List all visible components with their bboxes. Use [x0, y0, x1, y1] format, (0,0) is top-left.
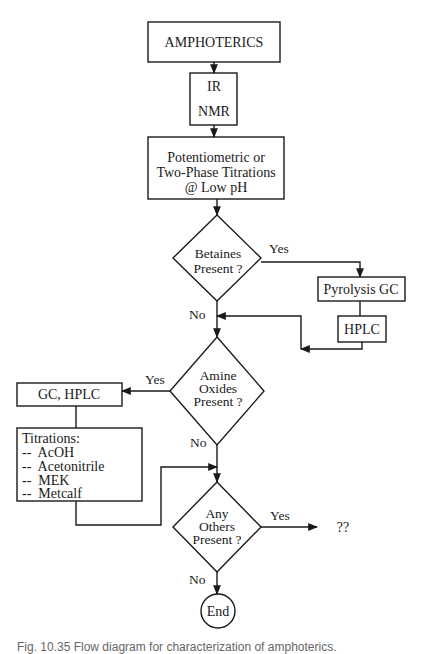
amine-yes-label: Yes [145, 372, 165, 387]
titration-line3: @ Low pH [185, 180, 248, 195]
titrations-item: -- AcOH [22, 445, 74, 460]
titration-line1: Potentiometric or [167, 150, 265, 165]
betaines-no-label: No [189, 307, 206, 322]
edge-return-to-main [217, 316, 301, 349]
gc-hplc-label: GC, HPLC [38, 387, 100, 402]
edge-hplc-return [301, 342, 362, 349]
end-label: End [207, 604, 230, 619]
hplc-label: HPLC [344, 322, 380, 337]
betaines-line2: Present ? [193, 261, 242, 276]
unknown-label: ?? [337, 520, 349, 535]
amphoterics-label: AMPHOTERICS [165, 35, 264, 50]
edge-titrations-to-main [76, 467, 217, 525]
nmr-label: NMR [198, 104, 231, 119]
betaines-line1: Betaines [195, 246, 242, 261]
pyrolysis-label: Pyrolysis GC [323, 282, 398, 297]
amine-no-label: No [190, 435, 207, 450]
others-no-label: No [189, 572, 206, 587]
amine-line3: Present ? [193, 394, 242, 409]
others-yes-label: Yes [270, 508, 290, 523]
ir-label: IR [207, 79, 222, 94]
edge-betaines-yes [261, 262, 360, 277]
titrations-title: Titrations: [22, 431, 80, 446]
titration-line2: Two-Phase Titrations [156, 165, 275, 180]
titrations-item: -- Acetonitrile [22, 459, 104, 474]
titrations-item: -- Metcalf [22, 486, 82, 501]
betaines-yes-label: Yes [269, 241, 289, 256]
others-line3: Present ? [192, 532, 241, 547]
figure-caption: Fig. 10.35 Flow diagram for characteriza… [17, 640, 336, 654]
